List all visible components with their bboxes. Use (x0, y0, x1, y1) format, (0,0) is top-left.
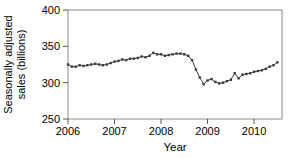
data-point-marker (125, 59, 127, 61)
data-point-marker (129, 57, 131, 59)
data-point-marker (230, 79, 232, 81)
data-point-marker (90, 63, 92, 65)
y-tick-label: 300 (42, 77, 60, 89)
data-point-marker (98, 63, 100, 65)
data-point-marker (179, 52, 181, 54)
y-tick-label: 350 (42, 40, 60, 52)
data-point-marker (214, 81, 216, 83)
x-axis-label: Year (163, 141, 186, 153)
data-point-marker (117, 60, 119, 62)
data-point-marker (94, 63, 96, 65)
data-point-marker (218, 82, 220, 84)
x-tick-label: 2007 (102, 125, 126, 137)
x-tick-label: 2010 (242, 125, 266, 137)
data-point-marker (226, 80, 228, 82)
data-point-marker (210, 78, 212, 80)
y-tick-label: 400 (42, 4, 60, 16)
data-point-marker (195, 68, 197, 70)
data-point-marker (164, 55, 166, 57)
data-point-marker (249, 72, 251, 74)
data-point-marker (175, 52, 177, 54)
data-point-marker (152, 52, 154, 54)
data-point-marker (265, 68, 267, 70)
sales-time-series-figure: 40035030025020062007200820092010YearSeas… (0, 0, 293, 158)
data-point-marker (168, 54, 170, 56)
data-point-marker (160, 53, 162, 55)
x-tick-label: 2008 (149, 125, 173, 137)
data-point-marker (113, 60, 115, 62)
data-point-marker (144, 56, 146, 58)
data-point-marker (257, 70, 259, 72)
data-point-marker (156, 53, 158, 55)
data-point-marker (187, 55, 189, 57)
data-point-marker (137, 57, 139, 59)
data-point-marker (67, 63, 69, 65)
data-point-marker (253, 71, 255, 73)
data-point-marker (237, 77, 239, 79)
data-point-marker (86, 64, 88, 66)
data-point-marker (276, 61, 278, 63)
data-point-marker (106, 63, 108, 65)
data-point-marker (109, 62, 111, 64)
y-tick-label: 250 (42, 113, 60, 125)
data-point-marker (261, 69, 263, 71)
data-point-marker (245, 73, 247, 75)
data-point-marker (71, 65, 73, 67)
data-point-marker (148, 55, 150, 57)
data-point-marker (234, 72, 236, 74)
data-point-marker (191, 59, 193, 61)
data-series-line (68, 53, 277, 84)
data-point-marker (121, 58, 123, 60)
data-point-marker (199, 76, 201, 78)
data-point-marker (75, 65, 77, 67)
y-axis-label-line: sales (billions) (15, 30, 27, 100)
data-point-marker (183, 53, 185, 55)
chart-canvas: 40035030025020062007200820092010YearSeas… (0, 0, 293, 158)
data-point-marker (268, 65, 270, 67)
data-point-marker (82, 65, 84, 67)
x-tick-label: 2006 (56, 125, 80, 137)
data-point-marker (140, 55, 142, 57)
data-point-marker (206, 79, 208, 81)
data-point-marker (171, 53, 173, 55)
data-point-marker (133, 57, 135, 59)
data-point-marker (78, 64, 80, 66)
y-axis-label-line: Seasonally adjusted (2, 15, 14, 113)
data-point-marker (272, 64, 274, 66)
data-point-marker (202, 83, 204, 85)
x-tick-label: 2009 (195, 125, 219, 137)
data-point-marker (102, 64, 104, 66)
data-point-marker (222, 81, 224, 83)
data-point-marker (241, 73, 243, 75)
